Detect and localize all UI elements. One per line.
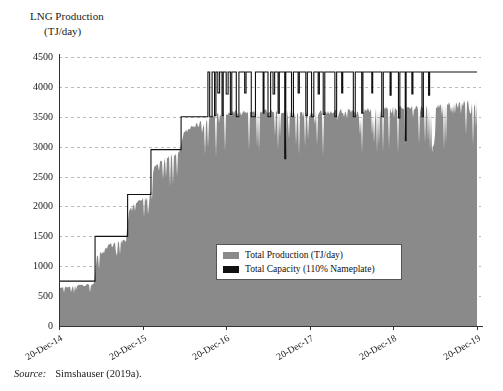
y-tick-2500: 2500 [11,171,53,182]
y-tick-3000: 3000 [11,141,53,152]
source-label: Source: [14,368,46,379]
y-tick-4000: 4000 [11,81,53,92]
lng-production-figure: LNG Production (TJ/day) 0500100015002000… [0,0,503,391]
legend-item-total-production: Total Production (TJ/day) [223,249,395,262]
y-tick-1500: 1500 [11,230,53,241]
y-tick-1000: 1000 [11,260,53,271]
legend-swatch-capacity [223,266,239,273]
legend-label-capacity: Total Capacity (110% Nameplate) [245,264,375,275]
y-tick-0: 0 [11,320,53,331]
source-citation: Simshauser (2019a). [55,368,141,379]
y-tick-500: 500 [11,290,53,301]
legend-label-production: Total Production (TJ/day) [245,250,343,261]
chart-plot-area [0,0,503,391]
y-tick-2000: 2000 [11,200,53,211]
y-tick-3500: 3500 [11,111,53,122]
y-tick-4500: 4500 [11,51,53,62]
chart-legend: Total Production (TJ/day) Total Capacity… [216,244,402,280]
source-note: Source:Simshauser (2019a). [14,368,142,379]
legend-item-total-capacity: Total Capacity (110% Nameplate) [223,263,395,276]
legend-swatch-production [223,252,239,259]
